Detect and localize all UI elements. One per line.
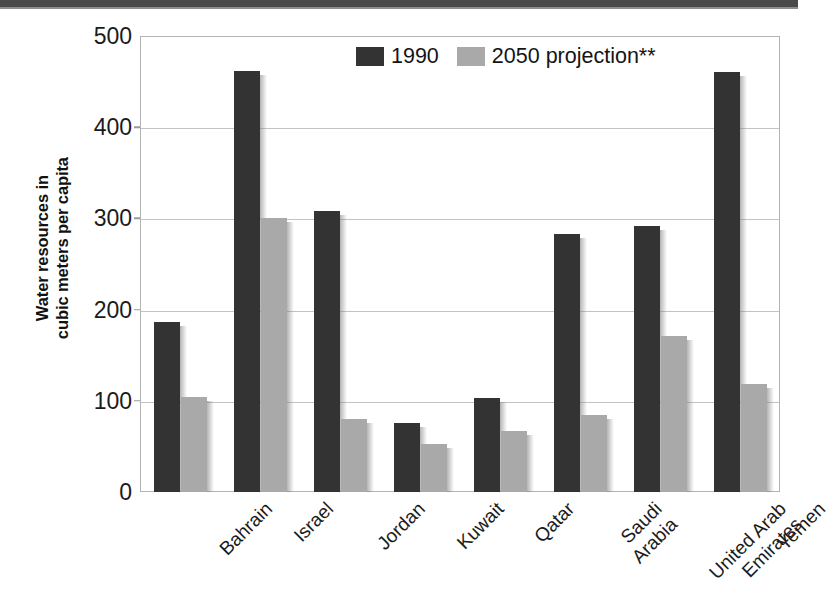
y-tick-label-200: 200 bbox=[76, 298, 132, 321]
bar[interactable] bbox=[181, 397, 207, 492]
legend-item-2050-projection[interactable]: 2050 projection** bbox=[457, 46, 656, 68]
x-axis-label: Jordan bbox=[373, 498, 430, 555]
bar-series-container bbox=[140, 36, 780, 492]
x-axis-label: Kuwait bbox=[453, 498, 509, 554]
bar-shadow bbox=[447, 448, 454, 492]
bar-shadow bbox=[527, 435, 534, 492]
bar[interactable] bbox=[741, 384, 767, 492]
x-axis-label-line: Israel bbox=[290, 498, 339, 547]
bar[interactable] bbox=[581, 415, 607, 492]
x-axis-label: SaudiArabia bbox=[612, 498, 683, 569]
x-axis-label-line: Qatar bbox=[530, 498, 579, 547]
x-axis-label: Qatar bbox=[530, 498, 579, 547]
bar-shadow bbox=[767, 388, 774, 492]
y-axis-title: Water resources in cubic meters per capi… bbox=[32, 98, 72, 398]
x-axis-label-line: Bahrain bbox=[215, 498, 277, 560]
bar-group bbox=[474, 36, 527, 492]
bar-group bbox=[394, 36, 447, 492]
bar-group bbox=[554, 36, 607, 492]
y-tick-label-100: 100 bbox=[76, 389, 132, 412]
bar-shadow bbox=[207, 401, 214, 492]
x-axis-category-labels: BahrainIsraelJordanKuwaitQatarSaudiArabi… bbox=[140, 492, 780, 613]
bar[interactable] bbox=[634, 226, 660, 492]
bar-group bbox=[714, 36, 767, 492]
legend-swatch-1990 bbox=[356, 47, 384, 66]
x-axis-label: Israel bbox=[290, 498, 339, 547]
bar-shadow bbox=[687, 340, 694, 492]
bar-group bbox=[634, 36, 687, 492]
legend-item-1990[interactable]: 1990 bbox=[356, 46, 439, 68]
y-tick-label-0: 0 bbox=[76, 481, 132, 504]
legend-swatch-2050 bbox=[457, 47, 485, 66]
y-tick-label-300: 300 bbox=[76, 207, 132, 230]
bar[interactable] bbox=[501, 431, 527, 492]
bar[interactable] bbox=[661, 336, 687, 492]
legend-label-2050-projection: 2050 projection** bbox=[492, 46, 656, 68]
x-axis-label: Bahrain bbox=[215, 498, 277, 560]
bar[interactable] bbox=[554, 234, 580, 492]
bar[interactable] bbox=[261, 218, 287, 492]
bar-group bbox=[154, 36, 207, 492]
bar-shadow bbox=[287, 222, 294, 492]
bar[interactable] bbox=[394, 423, 420, 492]
chart-legend: 1990 2050 projection** bbox=[356, 46, 656, 68]
x-axis-label-line: Jordan bbox=[373, 498, 430, 555]
bar-group bbox=[234, 36, 287, 492]
y-axis-title-line-2: cubic meters per capita bbox=[52, 98, 72, 398]
bar-shadow bbox=[367, 423, 374, 492]
y-axis-title-line-1: Water resources in bbox=[32, 98, 52, 398]
x-axis-label-line: Kuwait bbox=[453, 498, 509, 554]
legend-label-1990: 1990 bbox=[391, 46, 439, 68]
bar[interactable] bbox=[341, 419, 367, 492]
bar[interactable] bbox=[714, 72, 740, 492]
y-axis-tick-labels: 0100200300400500 bbox=[72, 36, 132, 492]
bar[interactable] bbox=[154, 322, 180, 492]
bar-shadow bbox=[607, 419, 614, 492]
bar[interactable] bbox=[421, 444, 447, 492]
y-tick-label-400: 400 bbox=[76, 116, 132, 139]
bar[interactable] bbox=[314, 211, 340, 492]
y-tick-label-500: 500 bbox=[76, 25, 132, 48]
bar-group bbox=[314, 36, 367, 492]
bar[interactable] bbox=[234, 71, 260, 492]
bar[interactable] bbox=[474, 398, 500, 492]
